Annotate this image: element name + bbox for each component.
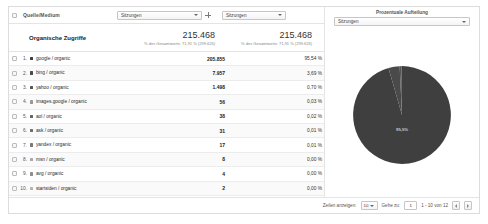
pct-metric-select[interactable]: Sitzungen xyxy=(222,11,286,20)
row-select-cell[interactable] xyxy=(9,56,20,61)
totals-metric-cell: 215.468 % des Gesamtwerts: 71,91 % (299.… xyxy=(117,30,220,46)
row-dimension-cell[interactable]: yahoo / organic xyxy=(30,85,127,90)
row-rank: 8. xyxy=(20,157,30,162)
add-metric-icon[interactable] xyxy=(205,12,211,18)
row-checkbox[interactable] xyxy=(12,143,17,148)
row-rank: 1. xyxy=(20,56,30,61)
totals-metric-sub: % des Gesamtwerts: 71,91 % (299.626) xyxy=(144,41,215,46)
metric-select-value: Sitzungen xyxy=(121,13,141,18)
row-select-cell[interactable] xyxy=(9,114,20,119)
row-metric-value: 2 xyxy=(127,185,230,191)
table-row[interactable]: 9.avg / organic40,00 % xyxy=(9,167,324,181)
row-checkbox[interactable] xyxy=(12,99,17,104)
row-metric-value: 56 xyxy=(127,99,230,105)
series-color-swatch xyxy=(30,57,33,60)
row-metric-value: 7.957 xyxy=(127,70,230,76)
pie-chart[interactable]: 95,5% xyxy=(350,63,454,167)
row-percent-value: 0,01 % xyxy=(230,143,324,148)
series-color-swatch xyxy=(30,143,33,146)
rows-per-page-label: Zeilen anzeigen: xyxy=(323,203,357,208)
metric-select[interactable]: Sitzungen xyxy=(117,11,202,20)
row-checkbox[interactable] xyxy=(12,85,17,90)
pie-slice-label: 95,5% xyxy=(396,127,408,132)
row-select-cell[interactable] xyxy=(9,71,20,76)
row-select-cell[interactable] xyxy=(9,157,20,162)
row-percent-value: 0,00 % xyxy=(230,186,324,191)
report-body: Quelle/Medium Sitzungen Sitzungen xyxy=(9,7,479,197)
row-metric-value: 8 xyxy=(127,156,230,162)
row-dimension-label: google / organic xyxy=(36,56,70,61)
row-checkbox[interactable] xyxy=(12,56,17,61)
series-color-swatch xyxy=(30,100,33,103)
row-dimension-label: images.google / organic xyxy=(36,99,87,104)
row-percent-value: 0,70 % xyxy=(230,85,324,90)
row-dimension-label: msn / organic xyxy=(36,157,65,162)
select-all-checkbox[interactable] xyxy=(12,13,17,18)
chevron-down-icon xyxy=(462,21,466,23)
table-row[interactable]: 4.images.google / organic560,03 % xyxy=(9,95,324,109)
row-metric-value: 38 xyxy=(127,113,230,119)
row-dimension-cell[interactable]: msn / organic xyxy=(30,157,127,162)
row-percent-value: 0,03 % xyxy=(230,99,324,104)
row-checkbox[interactable] xyxy=(12,171,17,176)
row-checkbox[interactable] xyxy=(12,114,17,119)
row-rank: 7. xyxy=(20,143,30,148)
row-select-cell[interactable] xyxy=(9,186,20,191)
table-row[interactable]: 10.startsiden / organic20,00 % xyxy=(9,182,324,196)
chevron-down-icon xyxy=(194,14,198,16)
totals-label-cell: Organische Zugriffe xyxy=(20,35,117,41)
row-percent-value: 95,54 % xyxy=(230,56,324,61)
row-checkbox[interactable] xyxy=(12,186,17,191)
row-select-cell[interactable] xyxy=(9,171,20,176)
series-color-swatch xyxy=(30,187,33,190)
row-checkbox[interactable] xyxy=(12,71,17,76)
table-row[interactable]: 3.yahoo / organic1.4980,70 % xyxy=(9,81,324,95)
row-checkbox[interactable] xyxy=(12,128,17,133)
select-all-cell[interactable] xyxy=(9,13,20,18)
pie-chart-svg[interactable] xyxy=(350,63,454,167)
row-dimension-cell[interactable]: images.google / organic xyxy=(30,99,127,104)
table-row[interactable]: 6.ask / organic310,01 % xyxy=(9,124,324,138)
row-select-cell[interactable] xyxy=(9,85,20,90)
totals-pct-value: 215.468 xyxy=(279,30,312,40)
totals-row: Organische Zugriffe 215.468 % des Gesamt… xyxy=(9,24,324,52)
row-dimension-label: avg / organic xyxy=(36,171,63,176)
totals-label: Organische Zugriffe xyxy=(29,35,86,41)
pct-metric-select-value: Sitzungen xyxy=(226,13,246,18)
table-row[interactable]: 5.aol / organic380,02 % xyxy=(9,110,324,124)
row-select-cell[interactable] xyxy=(9,143,20,148)
row-select-cell[interactable] xyxy=(9,128,20,133)
prev-page-button[interactable] xyxy=(452,201,460,210)
range-text: 1 - 10 von 12 xyxy=(421,203,448,208)
table-row[interactable]: 7.yandex / organic170,01 % xyxy=(9,138,324,152)
row-rank: 5. xyxy=(20,114,30,119)
row-checkbox[interactable] xyxy=(12,157,17,162)
row-dimension-cell[interactable]: yandex / organic xyxy=(30,142,127,147)
row-dimension-cell[interactable]: google / organic xyxy=(30,56,127,61)
table-row[interactable]: 8.msn / organic80,00 % xyxy=(9,153,324,167)
row-metric-value: 1.498 xyxy=(127,84,230,90)
row-dimension-label: ask / organic xyxy=(36,128,63,133)
row-dimension-cell[interactable]: aol / organic xyxy=(30,114,127,119)
row-dimension-label: aol / organic xyxy=(36,114,62,119)
pie-metric-select[interactable]: Sitzungen xyxy=(334,17,470,26)
table-row[interactable]: 2.bing / organic7.9573,69 % xyxy=(9,66,324,80)
metric-header-cell: Sitzungen xyxy=(117,11,220,20)
row-rank: 3. xyxy=(20,85,30,90)
pie-chart-holder: 95,5% xyxy=(325,32,479,197)
row-percent-value: 3,69 % xyxy=(230,71,324,76)
row-dimension-cell[interactable]: ask / organic xyxy=(30,128,127,133)
pie-chart-title: Prozentuale Aufteilung xyxy=(376,10,428,15)
goto-page-input[interactable]: 1 xyxy=(404,201,417,210)
rows-per-page-select[interactable]: 10 xyxy=(361,201,378,210)
goto-page-value: 1 xyxy=(409,203,411,208)
row-dimension-cell[interactable]: startsiden / organic xyxy=(30,186,127,191)
series-color-swatch xyxy=(30,115,33,118)
table-row[interactable]: 1.google / organic205.85595,54 % xyxy=(9,52,324,66)
next-page-button[interactable] xyxy=(464,201,472,210)
dimension-header-cell[interactable]: Quelle/Medium xyxy=(20,12,117,18)
chevron-down-icon xyxy=(278,14,282,16)
row-dimension-cell[interactable]: avg / organic xyxy=(30,171,127,176)
row-dimension-cell[interactable]: bing / organic xyxy=(30,70,127,75)
row-select-cell[interactable] xyxy=(9,99,20,104)
